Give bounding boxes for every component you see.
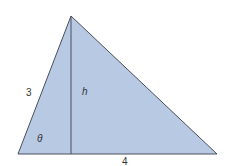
left-side-label: 3: [26, 87, 32, 98]
base-label: 4: [122, 156, 128, 166]
triangle: [18, 16, 217, 154]
angle-label: θ: [37, 133, 43, 144]
triangle-diagram: 3 h θ 4: [0, 0, 226, 166]
height-label: h: [82, 86, 88, 97]
